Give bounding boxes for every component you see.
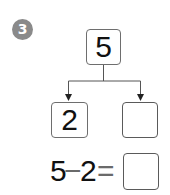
equation-operand-2: 2 (80, 155, 97, 187)
equation-equals-sign: = (97, 155, 115, 187)
equation-answer-box[interactable] (123, 153, 159, 190)
equation-minus-sign: − (64, 155, 82, 187)
part-left-box: 2 (51, 102, 88, 138)
arrow-down-icon (65, 94, 72, 101)
whole-number-box: 5 (86, 29, 121, 65)
arrow-down-icon (137, 94, 144, 101)
part-right-answer-box[interactable] (122, 102, 158, 138)
